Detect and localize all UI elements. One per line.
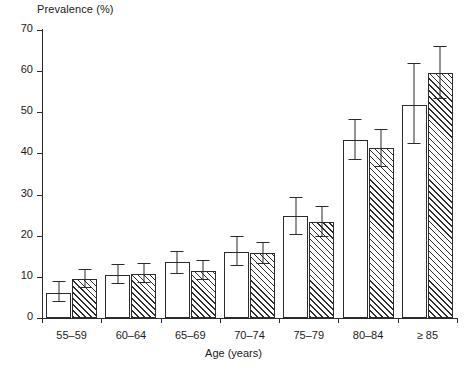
error-bar-stem [84,269,85,288]
y-tick-label: 30 [7,187,33,199]
error-bar-cap-upper [137,263,150,264]
error-bar-cap-upper [52,281,65,282]
error-bar [224,236,249,266]
error-bar-cap-lower [197,279,210,280]
y-tick-label: 70 [7,22,33,34]
x-tick-label: 60–64 [116,329,147,341]
x-tick-mark [457,318,458,323]
error-bar-cap-upper [289,197,302,198]
error-bar-cap-upper [256,242,269,243]
error-bar-cap-upper [375,129,388,130]
error-bar-cap-upper [230,236,243,237]
y-tick-label: 20 [7,228,33,240]
x-tick-label: 65–69 [175,329,206,341]
error-bar-stem [143,263,144,283]
error-bar-stem [440,46,441,99]
error-bar [369,129,394,168]
error-bar [402,63,427,144]
error-bar-stem [355,119,356,160]
error-bar-cap-lower [230,265,243,266]
error-bar [191,260,216,281]
error-bar-cap-lower [408,143,421,144]
error-bar-cap-upper [408,63,421,64]
plot-area [42,30,457,318]
error-bar-cap-upper [434,46,447,47]
error-bar [105,264,130,284]
y-tick-label: 60 [7,63,33,75]
x-tick-mark [42,318,43,323]
bar [428,73,453,318]
error-bar-cap-upper [349,119,362,120]
y-tick-label: 40 [7,145,33,157]
x-tick-label: 70–74 [234,329,265,341]
x-tick-mark [398,318,399,323]
error-bar-cap-upper [171,251,184,252]
error-bar-cap-lower [289,234,302,235]
x-tick-mark [101,318,102,323]
error-bar-cap-lower [315,236,328,237]
prevalence-by-age-bar-chart: Prevalence (%) 010203040506070 55–5960–6… [0,0,467,372]
error-bar-stem [58,281,59,302]
error-bar [46,281,71,302]
error-bar-cap-lower [52,301,65,302]
y-tick-label: 0 [7,310,33,322]
error-bar [165,251,190,274]
x-tick-label: ≥ 85 [417,329,438,341]
error-bar-cap-lower [256,263,269,264]
error-bar [250,242,275,264]
error-bar-stem [117,264,118,284]
x-axis-line [42,318,457,319]
error-bar-cap-lower [137,282,150,283]
bar [369,148,394,318]
y-tick-label: 50 [7,104,33,116]
error-bar-cap-lower [111,283,124,284]
bar [343,140,368,318]
error-bar-stem [203,260,204,281]
error-bar-cap-lower [78,287,91,288]
error-bar-stem [381,129,382,168]
error-bar-stem [262,242,263,264]
error-bar [428,46,453,99]
error-bar-cap-upper [78,269,91,270]
error-bar-stem [414,63,415,144]
error-bar-stem [321,206,322,238]
x-tick-mark [338,318,339,323]
y-axis-title: Prevalence (%) [37,3,114,15]
error-bar-stem [295,197,296,235]
x-axis-title: Age (years) [0,347,467,359]
error-bar-cap-lower [349,159,362,160]
error-bar [343,119,368,160]
x-tick-label: 75–79 [293,329,324,341]
error-bar-cap-upper [315,206,328,207]
x-tick-label: 80–84 [353,329,384,341]
error-bar-cap-lower [171,273,184,274]
error-bar-cap-lower [434,98,447,99]
error-bar [131,263,156,283]
error-bar-stem [177,251,178,274]
y-tick-label: 10 [7,269,33,281]
x-tick-mark [279,318,280,323]
x-tick-mark [220,318,221,323]
x-tick-mark [161,318,162,323]
error-bar [72,269,97,288]
error-bar [283,197,308,235]
error-bar-cap-upper [197,260,210,261]
error-bar-cap-upper [111,264,124,265]
error-bar-cap-lower [375,166,388,167]
error-bar-stem [236,236,237,266]
x-tick-label: 55–59 [56,329,87,341]
error-bar [309,206,334,238]
